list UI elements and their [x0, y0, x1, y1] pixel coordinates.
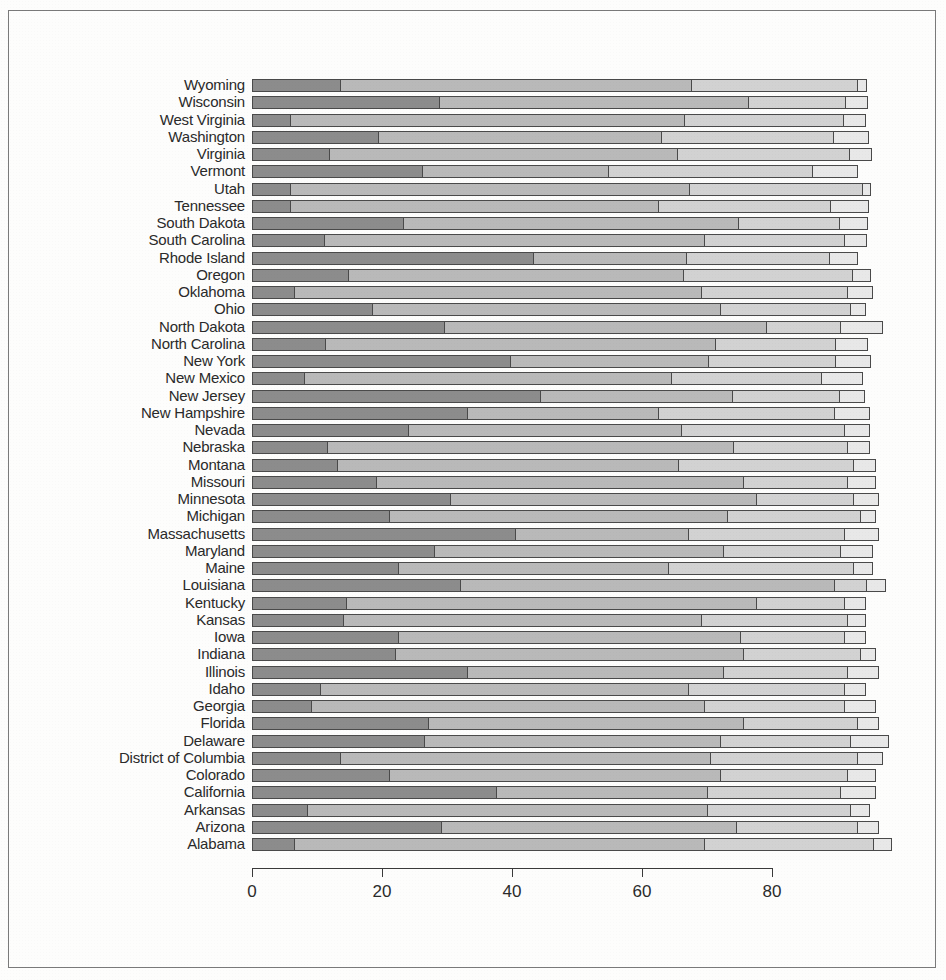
stacked-bar [252, 148, 872, 161]
y-axis-tick-label: Georgia [5, 699, 245, 713]
bar-segment-2 [290, 183, 690, 196]
bar-segment-1 [252, 717, 428, 730]
stacked-bar [252, 165, 858, 178]
y-axis-tick-label: Maine [5, 561, 245, 575]
chart-row: Massachusetts [0, 527, 946, 543]
x-axis-tick-label: 20 [373, 882, 392, 902]
y-axis-tick-label: Utah [5, 182, 245, 196]
bar-segment-1 [252, 338, 325, 351]
chart-row: Wyoming [0, 78, 946, 94]
bar-segment-4 [847, 441, 870, 454]
y-axis-tick-label: Arkansas [5, 803, 245, 817]
chart-row: Indiana [0, 647, 946, 663]
bar-segment-3 [727, 510, 860, 523]
y-axis-tick-label: Idaho [5, 682, 245, 696]
stacked-bar [252, 648, 876, 661]
bar-segment-1 [252, 838, 294, 851]
bar-segment-1 [252, 700, 311, 713]
stacked-bar [252, 683, 866, 696]
chart-row: Florida [0, 716, 946, 732]
bar-segment-1 [252, 821, 441, 834]
stacked-bar [252, 717, 879, 730]
bar-segment-4 [852, 269, 872, 282]
bar-segment-3 [720, 303, 850, 316]
bar-segment-3 [683, 269, 852, 282]
stacked-bar [252, 476, 876, 489]
chart-row: North Dakota [0, 320, 946, 336]
stacked-bar [252, 838, 892, 851]
bar-segment-4 [866, 579, 886, 592]
chart-row: Illinois [0, 665, 946, 681]
bar-segment-3 [710, 752, 856, 765]
chart-row: Missouri [0, 475, 946, 491]
bar-segment-4 [847, 286, 873, 299]
bar-segment-2 [337, 459, 678, 472]
y-axis-tick-label: Nebraska [5, 440, 245, 454]
bar-segment-3 [704, 700, 844, 713]
y-axis-tick-label: Virginia [5, 147, 245, 161]
bar-segment-2 [294, 286, 700, 299]
bar-segment-2 [348, 269, 683, 282]
y-axis-tick-label: Kansas [5, 613, 245, 627]
bar-segment-4 [844, 631, 867, 644]
bar-segment-1 [252, 165, 422, 178]
bar-segment-3 [707, 804, 850, 817]
stacked-bar [252, 286, 873, 299]
bar-segment-3 [748, 96, 846, 109]
stacked-bar [252, 338, 868, 351]
bar-segment-3 [704, 234, 844, 247]
y-axis-tick-label: Vermont [5, 164, 245, 178]
x-axis-tick [512, 868, 513, 877]
bar-segment-4 [844, 528, 880, 541]
bar-segment-3 [608, 165, 813, 178]
y-axis-tick-label: Massachusetts [5, 527, 245, 541]
y-axis-tick-label: Rhode Island [5, 251, 245, 265]
bar-segment-4 [857, 717, 880, 730]
bar-segment-4 [847, 666, 880, 679]
bar-segment-3 [658, 200, 830, 213]
bar-segment-3 [677, 148, 849, 161]
bar-segment-3 [671, 372, 821, 385]
bar-segment-3 [743, 717, 857, 730]
y-axis-tick-label: Arizona [5, 820, 245, 834]
y-axis-tick-label: Kentucky [5, 596, 245, 610]
bar-segment-1 [252, 286, 294, 299]
chart-row: Colorado [0, 768, 946, 784]
chart-row: Nebraska [0, 440, 946, 456]
chart-row: New Mexico [0, 371, 946, 387]
stacked-bar [252, 200, 869, 213]
y-axis-tick-label: Oregon [5, 268, 245, 282]
bar-segment-1 [252, 752, 340, 765]
bar-segment-3 [738, 217, 839, 230]
stacked-bar [252, 666, 879, 679]
stacked-bar [252, 510, 876, 523]
chart-row: South Carolina [0, 233, 946, 249]
stacked-bar [252, 234, 867, 247]
bar-segment-1 [252, 666, 467, 679]
bar-segment-2 [428, 717, 743, 730]
y-axis-tick-label: Iowa [5, 630, 245, 644]
chart-row: Maryland [0, 544, 946, 560]
bar-segment-2 [346, 597, 756, 610]
bar-segment-4 [853, 562, 873, 575]
bar-segment-4 [839, 390, 865, 403]
bar-segment-2 [389, 769, 721, 782]
y-axis-tick-label: California [5, 785, 245, 799]
bar-segment-1 [252, 372, 304, 385]
chart-row: Arkansas [0, 803, 946, 819]
x-axis-tick-label: 40 [503, 882, 522, 902]
chart-row: Virginia [0, 147, 946, 163]
bar-segment-4 [853, 459, 876, 472]
bar-segment-1 [252, 79, 340, 92]
chart-row: New Jersey [0, 389, 946, 405]
bar-segment-4 [833, 131, 869, 144]
bar-segment-2 [439, 96, 748, 109]
bar-segment-4 [857, 821, 880, 834]
bar-segment-1 [252, 407, 467, 420]
y-axis-tick-label: North Carolina [5, 337, 245, 351]
bar-segment-4 [844, 683, 867, 696]
bar-segment-4 [853, 493, 879, 506]
bar-segment-2 [378, 131, 661, 144]
bar-segment-4 [844, 234, 867, 247]
bar-segment-4 [844, 700, 877, 713]
